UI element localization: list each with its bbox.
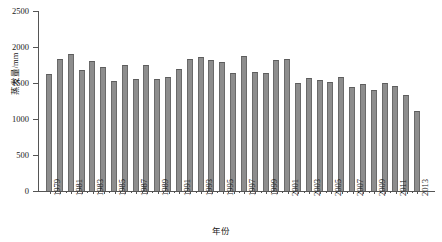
x-tick-mark — [396, 191, 397, 194]
x-tick-mark-minor — [390, 191, 391, 193]
x-tick-mark — [277, 191, 278, 194]
x-tick-mark — [212, 191, 213, 194]
x-tick-mark — [136, 191, 137, 194]
bar — [284, 59, 290, 191]
bar — [306, 78, 312, 191]
bar — [327, 82, 333, 191]
bar — [165, 77, 171, 191]
bar — [219, 62, 225, 191]
x-tick-mark-minor — [174, 191, 175, 193]
x-tick-mark — [320, 191, 321, 194]
x-tick-mark — [71, 191, 72, 194]
x-tick-label: 2013 — [421, 179, 430, 196]
x-tick-mark — [115, 191, 116, 194]
x-tick-mark-minor — [87, 191, 88, 193]
x-tick-mark — [417, 191, 418, 194]
x-tick-mark — [374, 191, 375, 194]
bar — [57, 59, 63, 191]
bar — [241, 56, 247, 191]
bar — [263, 73, 269, 191]
y-tick-label: 0 — [0, 187, 29, 196]
bar — [371, 90, 377, 191]
bar — [133, 79, 139, 191]
x-tick-mark — [223, 191, 224, 194]
x-tick-mark — [93, 191, 94, 194]
x-tick-mark-minor — [66, 191, 67, 193]
x-tick-mark — [190, 191, 191, 194]
bar — [273, 60, 279, 191]
x-tick-mark-minor — [217, 191, 218, 193]
x-tick-mark — [255, 191, 256, 194]
bar — [79, 70, 85, 191]
x-tick-mark — [60, 191, 61, 194]
x-tick-mark-minor — [196, 191, 197, 193]
x-tick-mark-minor — [152, 191, 153, 193]
x-tick-mark-minor — [131, 191, 132, 193]
bar — [122, 65, 128, 191]
bar — [46, 74, 52, 191]
x-tick-mark — [244, 191, 245, 194]
x-tick-mark — [82, 191, 83, 194]
x-tick-mark-minor — [369, 191, 370, 193]
bar — [187, 59, 193, 191]
evaporation-bar-chart: 蒸发量/mm 05001000150020002500 197919811983… — [0, 0, 442, 242]
x-tick-mark — [201, 191, 202, 194]
y-tick-label: 1000 — [0, 115, 29, 124]
x-tick-mark-minor — [412, 191, 413, 193]
bar — [230, 73, 236, 191]
x-tick-mark-minor — [282, 191, 283, 193]
x-tick-mark — [104, 191, 105, 194]
x-axis-title: 年份 — [0, 224, 442, 236]
y-tick-label: 500 — [0, 151, 29, 160]
bar — [208, 60, 214, 191]
bar — [295, 83, 301, 191]
bar — [382, 83, 388, 191]
x-tick-mark — [125, 191, 126, 194]
x-tick-mark — [147, 191, 148, 194]
x-tick-mark — [363, 191, 364, 194]
x-tick-mark — [50, 191, 51, 194]
x-tick-mark — [179, 191, 180, 194]
bar — [100, 67, 106, 191]
x-tick-mark-minor — [261, 191, 262, 193]
x-tick-mark — [353, 191, 354, 194]
x-tick-mark-minor — [326, 191, 327, 193]
x-tick-mark — [288, 191, 289, 194]
x-tick-mark — [385, 191, 386, 194]
bar — [252, 72, 258, 191]
y-tick-label: 2000 — [0, 43, 29, 52]
x-tick-mark-minor — [347, 191, 348, 193]
bar — [403, 95, 409, 191]
bar — [392, 86, 398, 191]
x-tick-mark — [266, 191, 267, 194]
x-tick-mark — [331, 191, 332, 194]
x-tick-mark — [309, 191, 310, 194]
bar — [154, 79, 160, 191]
bar — [111, 81, 117, 191]
x-tick-mark — [234, 191, 235, 194]
plot-area — [38, 11, 434, 191]
y-tick-label: 1500 — [0, 79, 29, 88]
bar — [176, 69, 182, 191]
x-tick-mark-minor — [304, 191, 305, 193]
x-tick-mark — [407, 191, 408, 194]
x-tick-mark-minor — [109, 191, 110, 193]
bar — [198, 57, 204, 191]
bar — [317, 80, 323, 191]
bar — [89, 61, 95, 191]
y-tick-label: 2500 — [0, 7, 29, 16]
x-tick-mark — [158, 191, 159, 194]
x-tick-mark — [298, 191, 299, 194]
y-tick-mark — [33, 191, 38, 192]
bar — [338, 77, 344, 191]
x-tick-mark — [169, 191, 170, 194]
x-tick-mark-minor — [239, 191, 240, 193]
bar — [68, 54, 74, 191]
bar — [143, 65, 149, 191]
bar — [360, 84, 366, 191]
x-tick-mark — [342, 191, 343, 194]
bar — [349, 87, 355, 191]
